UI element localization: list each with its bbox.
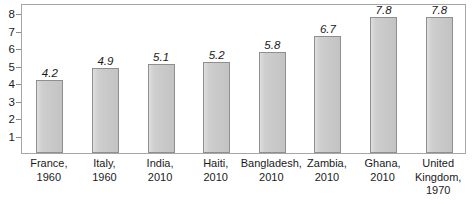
- x-axis-labels: France,1960Italy,1960India,2010Haiti,201…: [21, 157, 466, 204]
- plot-area: 4.24.95.15.25.86.77.87.8: [21, 4, 466, 154]
- bar-value-label-1: 4.9: [82, 55, 128, 67]
- bar-3: [203, 62, 230, 153]
- bar-2: [148, 64, 175, 153]
- bar-value-label-5: 6.7: [305, 23, 351, 35]
- bar-0: [36, 80, 63, 153]
- bar-6: [370, 17, 397, 153]
- bar-1: [92, 68, 119, 153]
- bar-value-label-0: 4.2: [27, 67, 73, 79]
- x-category-line: Kingdom,: [405, 171, 471, 185]
- x-category-label-7: UnitedKingdom,1970: [405, 157, 471, 198]
- y-tick-label-7: 7: [1, 26, 15, 37]
- y-tick-label-4: 4: [1, 79, 15, 90]
- y-tick-label-5: 5: [1, 61, 15, 72]
- bar-value-label-6: 7.8: [361, 4, 407, 16]
- y-tick-label-6: 6: [1, 44, 15, 55]
- bar-value-label-4: 5.8: [249, 39, 295, 51]
- x-category-line: United: [405, 157, 471, 171]
- bar-5: [314, 36, 341, 153]
- bar-4: [259, 52, 286, 153]
- bar-value-label-3: 5.2: [194, 49, 240, 61]
- bar-chart: 12345678 4.24.95.15.25.86.77.87.8 France…: [0, 0, 474, 204]
- y-tick-label-1: 1: [1, 131, 15, 142]
- bars-layer: 4.24.95.15.25.86.77.87.8: [22, 5, 465, 153]
- y-tick-label-3: 3: [1, 96, 15, 107]
- bar-value-label-7: 7.8: [416, 4, 462, 16]
- bar-value-label-2: 5.1: [138, 51, 184, 63]
- bar-7: [426, 17, 453, 153]
- y-tick-label-2: 2: [1, 114, 15, 125]
- x-category-line: 1970: [405, 184, 471, 198]
- y-tick-label-8: 8: [1, 9, 15, 20]
